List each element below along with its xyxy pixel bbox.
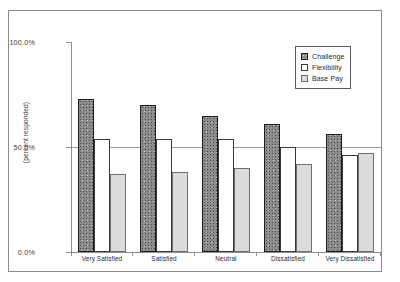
legend-item-base-pay: Base Pay <box>301 73 344 84</box>
bar-challenge <box>78 99 94 252</box>
bar-base-pay <box>234 168 250 252</box>
bar-group-very-satisfied: Very Satisfied <box>71 42 133 252</box>
legend-swatch-icon <box>301 53 308 60</box>
bar-flexibility <box>156 139 172 252</box>
bar-base-pay <box>172 172 188 252</box>
legend-item-flexibility: Flexibility <box>301 62 344 73</box>
bar-flexibility <box>342 155 358 252</box>
x-category-label: Very Satisfied <box>82 255 122 262</box>
x-tick <box>380 252 381 256</box>
y-tick-label-100: 100.0% <box>9 38 35 47</box>
bar-challenge <box>202 116 218 253</box>
bar-base-pay <box>358 153 374 252</box>
x-tick <box>71 252 72 256</box>
bar-group-satisfied: Satisfied <box>133 42 195 252</box>
legend-label: Challenge <box>312 53 344 60</box>
bar-challenge <box>326 134 342 252</box>
legend-label: Flexibility <box>312 64 342 71</box>
legend-item-challenge: Challenge <box>301 51 344 62</box>
legend-label: Base Pay <box>312 75 343 82</box>
x-tick <box>318 252 319 256</box>
legend-swatch-icon <box>301 64 308 71</box>
x-category-label: Dissatisfied <box>271 255 305 262</box>
x-tick <box>132 252 133 256</box>
x-axis-line <box>71 252 381 253</box>
bar-base-pay <box>110 174 126 252</box>
bar-base-pay <box>296 164 312 252</box>
y-tick-label-0: 0.0% <box>18 248 35 257</box>
bar-group-neutral: Neutral <box>195 42 257 252</box>
chart-legend: Challenge Flexibility Base Pay <box>295 46 351 89</box>
bar-flexibility <box>280 147 296 252</box>
bar-flexibility <box>218 139 234 252</box>
bar-flexibility <box>94 139 110 252</box>
bar-challenge <box>264 124 280 252</box>
y-axis-title: (percent responded) <box>22 87 29 179</box>
bar-challenge <box>140 105 156 252</box>
x-category-label: Neutral <box>215 255 236 262</box>
x-tick <box>256 252 257 256</box>
x-category-label: Very Dissatisfied <box>326 255 375 262</box>
chart-frame: 100.0% 50.0% 0.0% (percent responded) Ve… <box>8 10 382 272</box>
legend-swatch-icon <box>301 75 308 82</box>
x-tick <box>194 252 195 256</box>
x-category-label: Satisfied <box>151 255 176 262</box>
